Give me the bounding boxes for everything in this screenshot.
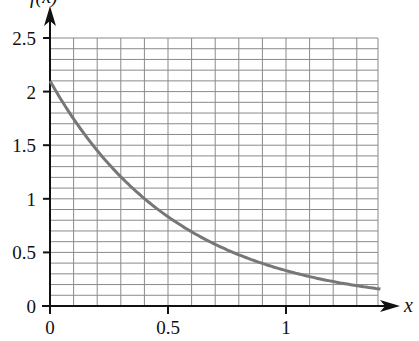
y-tick-label: 2 (27, 82, 37, 103)
y-tick-label: 0 (27, 296, 37, 317)
x-tick-label: 1 (281, 317, 291, 338)
axes (42, 6, 400, 314)
x-axis-label: x (403, 294, 413, 316)
grid-lines (50, 38, 378, 306)
chart: 00.511.522.500.51 x f(x) (0, 0, 419, 341)
y-tick-label: 2.5 (12, 28, 36, 49)
y-tick-label: 1 (27, 189, 37, 210)
x-tick-label: 0.5 (156, 317, 180, 338)
y-axis-label: f(x) (30, 0, 58, 8)
tick-labels: 00.511.522.500.51 (12, 28, 291, 338)
y-tick-label: 1.5 (12, 135, 36, 156)
x-tick-label: 0 (45, 317, 55, 338)
y-tick-label: 0.5 (12, 242, 36, 263)
